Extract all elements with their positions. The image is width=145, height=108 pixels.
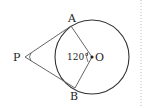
tangent-pa <box>25 26 71 57</box>
angle-label: 120° <box>67 52 89 62</box>
label-b: B <box>70 90 78 103</box>
label-o: O <box>95 51 104 64</box>
center-dot <box>90 55 93 58</box>
label-p: P <box>13 51 21 64</box>
label-a: A <box>67 12 77 25</box>
geometry-diagram: P A B O 120° <box>0 0 145 108</box>
